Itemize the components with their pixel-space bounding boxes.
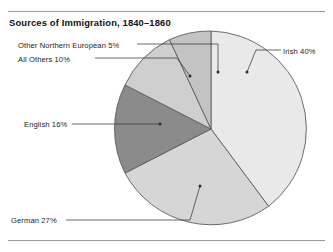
leader-dot-other-northern-european [217, 71, 220, 74]
slice-label-english: English 16% [24, 120, 67, 129]
leader-dot-all-others [189, 75, 192, 78]
figure-panel: Sources of Immigration, 1840–1860 [0, 0, 333, 252]
leader-dot-english [159, 123, 162, 126]
slice-label-german: German 27% [11, 216, 57, 225]
leader-dot-german [199, 185, 202, 188]
slice-label-irish: Irish 40% [283, 47, 316, 56]
slice-label-other-northern-european: Other Northern European 5% [18, 41, 119, 50]
leader-dot-irish [246, 71, 249, 74]
slice-label-all-others: All Others 10% [18, 55, 70, 64]
